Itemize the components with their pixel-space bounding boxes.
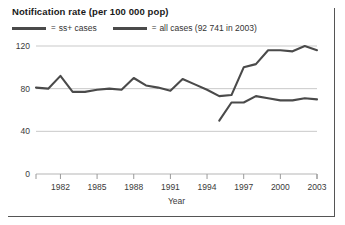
y-axis-tick-label-80: 80 (6, 84, 30, 94)
x-axis-tick-label-2003: 2003 (297, 182, 337, 192)
bottom-rule (8, 216, 334, 217)
x-axis-title: Year (147, 196, 207, 206)
x-axis-tick-label-1982: 1982 (40, 182, 80, 192)
x-axis-tick-label-1997: 1997 (224, 182, 264, 192)
x-axis-tick-label-1991: 1991 (150, 182, 190, 192)
x-axis-tick-label-1985: 1985 (77, 182, 117, 192)
x-axis-tick-label-1988: 1988 (114, 182, 154, 192)
chart-figure: Notification rate (per 100 000 pop) = ss… (0, 0, 345, 225)
x-axis-tick-label-2000: 2000 (260, 182, 300, 192)
page-divider (334, 8, 335, 217)
x-axis-tick-label-1994: 1994 (187, 182, 227, 192)
y-axis-tick-label-0: 0 (6, 169, 30, 179)
y-axis-tick-label-120: 120 (6, 41, 30, 51)
series-line-ss-positive (219, 96, 317, 121)
y-axis-tick-label-40: 40 (6, 126, 30, 136)
